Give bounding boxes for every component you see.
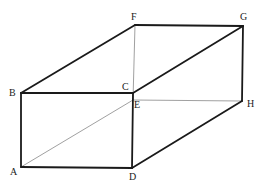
label-H: H [247, 98, 254, 109]
visible-edges [21, 25, 243, 168]
edge-DA [21, 167, 132, 168]
label-A: A [10, 166, 18, 177]
edge-DH [132, 101, 242, 168]
edge-BF [21, 25, 135, 93]
edge-EH [133, 100, 242, 101]
label-E: E [134, 99, 140, 110]
diagonal-AE [21, 100, 133, 167]
edge-FG [135, 25, 243, 26]
prism-diagram: A B C D E F G H [0, 0, 263, 190]
label-F: F [131, 11, 137, 22]
edge-GH [242, 26, 243, 101]
label-G: G [240, 11, 247, 22]
label-D: D [129, 171, 136, 182]
label-C: C [122, 81, 129, 92]
label-B: B [9, 87, 16, 98]
edge-CG [133, 26, 243, 93]
edge-CD [132, 93, 133, 168]
edge-FE [133, 25, 135, 100]
